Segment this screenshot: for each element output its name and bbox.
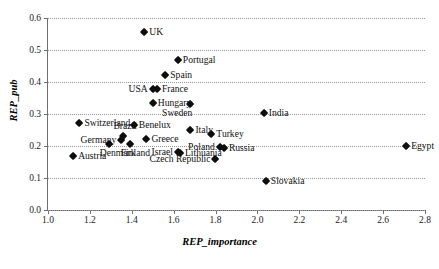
plot-area: UKPortugalSpainFranceUSAHungarySwedenInd… [48,18,425,210]
x-tick-label: 1.2 [84,215,96,225]
data-point-label: Turkey [216,129,243,139]
x-tick-label: 2.4 [335,215,347,225]
x-axis-title: REP_importance [0,236,439,247]
diamond-marker-icon [69,151,78,160]
x-tick [425,210,426,214]
data-point-label: Benelux [139,120,171,130]
diamond-marker-icon [148,99,157,108]
x-tick-label: 1.6 [168,215,180,225]
gridline [48,18,425,19]
y-tick-label: 0.2 [0,141,41,151]
data-point-label: Slovakia [271,176,305,186]
x-tick-label: 1.0 [42,215,54,225]
gridline [48,178,425,179]
diamond-marker-icon [161,71,170,80]
gridline [48,82,425,83]
gridline [48,210,425,211]
data-point-label: Czech Republic [150,154,211,164]
data-point-label: USA [129,84,148,94]
diamond-marker-icon [75,119,84,128]
gridline [48,114,425,115]
diamond-marker-icon [173,56,182,65]
diamond-marker-icon [142,135,151,144]
data-point-label: Greece [151,134,178,144]
data-point-label: Austria [78,151,106,161]
data-point-label: Brazil [113,121,136,131]
scatter-chart-figure: REP_pub REP_importance 0.00.10.20.30.40.… [0,0,439,269]
data-point-label: UK [149,27,163,37]
diamond-marker-icon [140,28,149,37]
diamond-marker-icon [402,142,411,151]
diamond-marker-icon [207,129,216,138]
data-point-label: France [162,84,188,94]
y-tick-label: 0.5 [0,45,41,55]
y-tick-label: 0.3 [0,109,41,119]
x-tick-label: 2.0 [252,215,264,225]
data-point-label: Russia [229,143,255,153]
y-tick-label: 0.1 [0,173,41,183]
diamond-marker-icon [186,126,195,135]
y-tick-label: 0.6 [0,13,41,23]
y-tick-label: 0.4 [0,77,41,87]
gridline [48,50,425,51]
data-point-label: Sweden [162,108,192,118]
x-tick-label: 1.4 [126,215,138,225]
x-tick-label: 2.8 [419,215,431,225]
data-point-label: Spain [170,70,192,80]
x-tick-label: 1.8 [210,215,222,225]
data-point-label: Portugal [183,55,216,65]
data-point-label: Finland [121,148,150,158]
y-tick-label: 0.0 [0,205,41,215]
x-tick-label: 2.6 [377,215,389,225]
x-tick-label: 2.2 [293,215,305,225]
diamond-marker-icon [259,109,268,118]
data-point-label: India [269,108,289,118]
data-point-label: Egypt [411,141,434,151]
